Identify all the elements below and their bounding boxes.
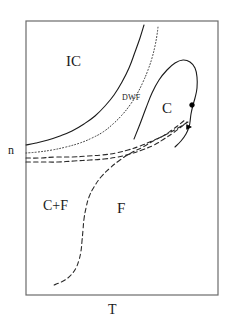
marker-critical-point-circle [190, 103, 195, 108]
axis-label-n: n [8, 144, 14, 156]
phase-diagram-figure: IC C DWF n C+F F T [0, 0, 229, 328]
phase-diagram-canvas [0, 0, 229, 328]
region-label-c: C [162, 101, 172, 116]
region-label-c-plus-f: C+F [43, 199, 68, 213]
phase-boundary-curves [26, 25, 197, 285]
region-label-dwf: DWF [122, 94, 140, 102]
region-label-f: F [117, 201, 125, 216]
curve-c-f-boundary-dashed-upper [26, 119, 186, 158]
axis-label-t: T [108, 303, 117, 317]
curve-ic-c-boundary-solid [26, 25, 144, 145]
curve-c-f-boundary-dashed-lower [26, 122, 187, 162]
curve-dwf-boundary-dotted [26, 27, 158, 153]
region-label-ic: IC [66, 54, 81, 69]
